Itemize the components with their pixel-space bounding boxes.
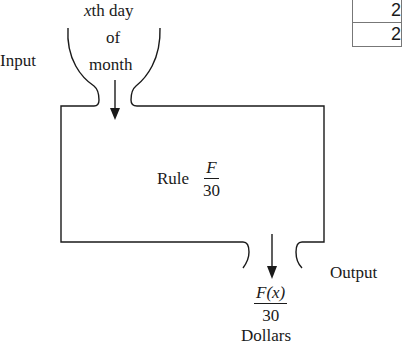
input-text-line1: xth day bbox=[84, 2, 134, 19]
output-unit: Dollars bbox=[241, 327, 291, 344]
rule-denominator: 30 bbox=[203, 179, 220, 199]
rule-fraction: F 30 bbox=[203, 159, 220, 199]
rule-numerator: F bbox=[204, 159, 218, 179]
table-row: 2 bbox=[353, 23, 402, 47]
input-label: Input bbox=[0, 52, 36, 69]
rule-label: Rule bbox=[157, 170, 189, 187]
funnel-right-and-box-right bbox=[131, 28, 324, 268]
table-row: 2 bbox=[353, 0, 402, 23]
input-text-line3: month bbox=[89, 56, 132, 73]
output-numerator: F(x) bbox=[254, 284, 287, 304]
table-fragment: 2 2 bbox=[352, 0, 402, 47]
table-cell: 2 bbox=[353, 23, 402, 47]
output-fraction: F(x) 30 bbox=[254, 284, 287, 324]
output-label: Output bbox=[330, 264, 377, 281]
input-text-line2: of bbox=[106, 29, 120, 46]
input-arrowhead bbox=[110, 108, 120, 120]
input-text-line1-rest: th day bbox=[92, 1, 134, 20]
table-cell: 2 bbox=[353, 0, 402, 23]
output-denominator: 30 bbox=[262, 304, 279, 324]
input-variable: x bbox=[84, 1, 92, 20]
output-arrowhead bbox=[267, 266, 277, 279]
